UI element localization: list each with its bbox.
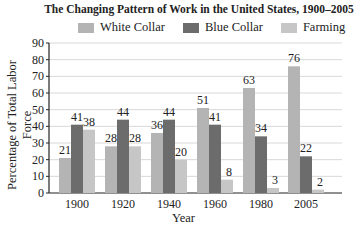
bar-value-label: 41 [209,110,221,124]
bar-value-label: 76 [288,51,300,65]
bar-value-label: 36 [151,118,163,132]
bar-value-label: 2 [317,175,323,189]
bar-value-label: 51 [197,93,209,107]
bar-value-label: 8 [226,165,232,179]
plot-area: 0102030405060708090190021413819202844281… [0,0,354,232]
y-tick-label: 10 [32,169,44,183]
bar-white-collar [151,133,163,193]
x-tick-label: 1920 [111,197,135,211]
bar-value-label: 28 [129,131,141,145]
bar-value-label: 63 [243,73,255,87]
bar-white-collar [105,146,117,193]
y-tick-label: 30 [32,136,44,150]
x-tick-label: 1980 [249,197,273,211]
bar-value-label: 21 [59,143,71,157]
x-tick-label: 1960 [203,197,227,211]
y-tick-label: 80 [32,53,44,67]
bar-white-collar [288,66,300,193]
y-tick-label: 70 [32,69,44,83]
bar-farming [129,146,141,193]
y-tick-label: 40 [32,119,44,133]
bar-blue-collar [71,125,83,193]
bar-farming [267,188,279,193]
bar-farming [175,160,187,193]
bar-blue-collar [300,156,312,193]
y-tick-label: 0 [38,186,44,200]
bar-farming [221,180,233,193]
y-tick-label: 60 [32,86,44,100]
bar-blue-collar [255,136,267,193]
bar-white-collar [59,158,71,193]
x-tick-label: 1940 [157,197,181,211]
bar-farming [83,130,95,193]
bar-value-label: 28 [105,131,117,145]
bar-farming [312,190,324,193]
y-tick-label: 90 [32,36,44,50]
bar-blue-collar [209,125,221,193]
bar-value-label: 41 [71,110,83,124]
bar-value-label: 22 [300,141,312,155]
x-tick-label: 1900 [65,197,89,211]
y-tick-label: 50 [32,103,44,117]
bar-value-label: 3 [272,173,278,187]
y-tick-label: 20 [32,153,44,167]
bar-value-label: 20 [175,145,187,159]
bar-value-label: 44 [163,105,175,119]
bar-value-label: 38 [83,115,95,129]
bar-blue-collar [117,120,129,193]
bar-white-collar [197,108,209,193]
bar-white-collar [243,88,255,193]
bar-blue-collar [163,120,175,193]
bar-value-label: 34 [255,121,267,135]
x-tick-label: 2005 [294,197,318,211]
bar-value-label: 44 [117,105,129,119]
